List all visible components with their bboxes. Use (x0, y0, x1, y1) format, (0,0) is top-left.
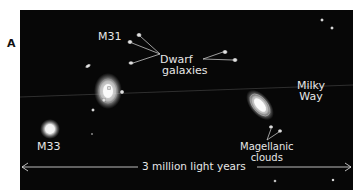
dwarf-galaxy (102, 98, 107, 103)
dwarf-galaxy (84, 63, 92, 70)
dwarf-galaxy (127, 40, 133, 45)
m31-galaxy (94, 73, 122, 109)
dwarf-galaxies (62, 33, 239, 125)
dwarf-galaxy (107, 86, 112, 91)
magellanic-clouds (269, 125, 283, 133)
m33-label: M33 (37, 141, 61, 152)
dwarf-galaxy (120, 90, 125, 95)
milky-label-line2: Way (297, 91, 325, 102)
milky-way-label: Milky Way (297, 80, 325, 102)
magellanic-leader-lines (267, 129, 279, 140)
magellanic-clouds-label: Magellanic clouds (240, 141, 294, 163)
magellanic-label-line1: Magellanic (240, 141, 294, 152)
local-group-diagram: M31 Dwarf galaxies Milky Way Magellanic … (20, 10, 353, 190)
panel-label: A (7, 37, 16, 50)
dwarf-galaxies-label: Dwarf galaxies (160, 54, 208, 76)
m33-galaxy (40, 119, 60, 139)
magellanic-label-line2: clouds (240, 152, 294, 163)
dwarf-label-line2: galaxies (162, 65, 208, 76)
milky-way-galaxy (241, 85, 279, 125)
scale-bar-label: 3 million light years (142, 161, 246, 172)
m31-label: M31 (98, 31, 122, 42)
